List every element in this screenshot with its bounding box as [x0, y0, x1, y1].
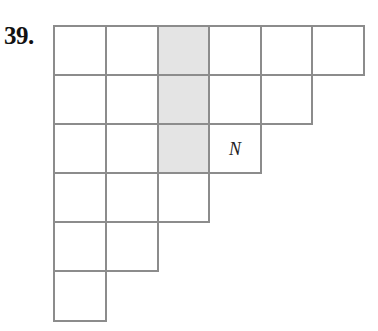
grid-cell	[105, 74, 159, 125]
grid-cell	[260, 74, 313, 125]
grid-cell	[53, 25, 107, 76]
grid-cell	[208, 74, 262, 125]
grid-cell	[208, 25, 262, 76]
grid-cell	[311, 25, 365, 76]
grid-cell	[105, 172, 159, 223]
grid-cell	[53, 74, 107, 125]
cell-label: N	[210, 138, 260, 159]
grid-cell	[53, 270, 107, 322]
grid-cell	[105, 221, 159, 272]
grid-cell	[105, 25, 159, 76]
problem-number: 39.	[4, 22, 34, 50]
grid-cell	[53, 123, 107, 174]
grid-cell	[105, 123, 159, 174]
grid-cell	[53, 172, 107, 223]
grid-cell	[53, 221, 107, 272]
shaded-cell	[157, 123, 210, 174]
grid-cell	[260, 25, 313, 76]
grid-cell	[157, 172, 210, 223]
shaded-cell	[157, 74, 210, 125]
shaded-cell	[157, 25, 210, 76]
grid-cell: N	[208, 123, 262, 174]
